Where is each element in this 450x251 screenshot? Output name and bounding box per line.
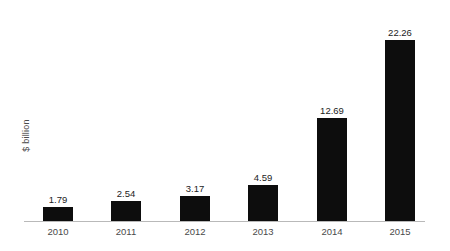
bar-column[interactable]: 12.69 — [317, 105, 347, 222]
bar-column[interactable]: 3.17 — [180, 183, 210, 222]
bar-group: 1.79 — [24, 8, 92, 222]
bar-value-label: 22.26 — [388, 27, 412, 38]
bar-rect[interactable] — [248, 185, 278, 222]
bar-value-label: 4.59 — [254, 172, 273, 183]
bar-column[interactable]: 1.79 — [43, 194, 73, 222]
x-axis-tick-2012: 2012 — [161, 226, 229, 238]
x-axis-tick-2010: 2010 — [24, 226, 92, 238]
bar-group: 3.17 — [161, 8, 229, 222]
bar-chart: $ billion 1.79 2.54 3.17 4.59 — [0, 0, 450, 251]
x-axis-tick-2013: 2013 — [229, 226, 297, 238]
x-axis-tick-2011: 2011 — [92, 226, 160, 238]
bar-rect[interactable] — [180, 196, 210, 222]
bar-group: 22.26 — [366, 8, 434, 222]
plot-area: 1.79 2.54 3.17 4.59 12.69 — [24, 8, 426, 222]
bar-column[interactable]: 22.26 — [385, 27, 415, 222]
bar-rect[interactable] — [317, 118, 347, 222]
bar-value-label: 2.54 — [117, 188, 136, 199]
bar-rect[interactable] — [111, 201, 141, 222]
bar-group: 4.59 — [229, 8, 297, 222]
bar-value-label: 3.17 — [186, 183, 205, 194]
x-axis-tick-2014: 2014 — [298, 226, 366, 238]
bar-column[interactable]: 4.59 — [248, 172, 278, 222]
x-axis-tick-2015: 2015 — [366, 226, 434, 238]
x-axis-line — [24, 221, 425, 222]
bar-group: 2.54 — [92, 8, 160, 222]
bar-column[interactable]: 2.54 — [111, 188, 141, 222]
bar-group: 12.69 — [298, 8, 366, 222]
bar-rect[interactable] — [43, 207, 73, 222]
bar-value-label: 12.69 — [320, 105, 344, 116]
bar-value-label: 1.79 — [49, 194, 68, 205]
bar-rect[interactable] — [385, 40, 415, 222]
